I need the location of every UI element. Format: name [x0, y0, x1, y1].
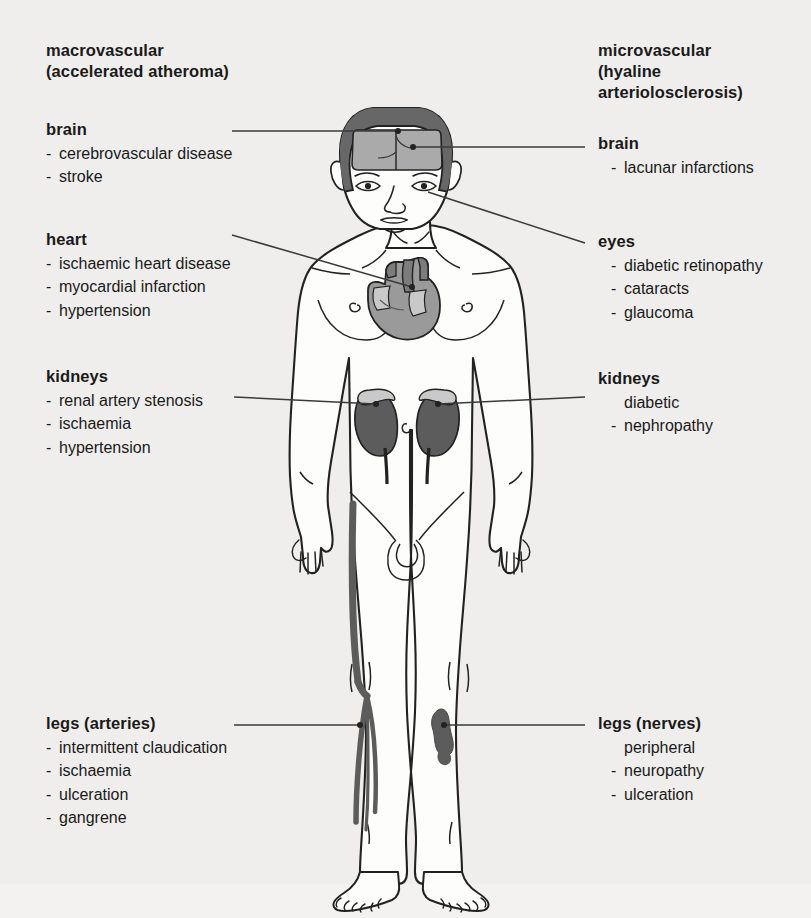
- block-title: heart: [46, 228, 231, 252]
- label-block-brain-left: brain -cerebrovascular disease -stroke: [46, 118, 232, 189]
- list-item: -ulceration: [46, 783, 227, 807]
- list-item: -myocardial infarction: [46, 275, 231, 299]
- list-item: -hypertension: [46, 299, 231, 323]
- page-bottom-strip: [0, 884, 811, 918]
- label-block-kidneys-left: kidneys -renal artery stenosis -ischaemi…: [46, 365, 203, 459]
- list-item: -glaucoma: [598, 301, 763, 325]
- list-item: -ischaemic heart disease: [46, 252, 231, 276]
- block-items: -diabetic retinopathy -cataracts -glauco…: [598, 254, 763, 325]
- block-items: -cerebrovascular disease -stroke: [46, 142, 232, 189]
- list-item: -hypertension: [46, 436, 203, 460]
- label-block-legs-left: legs (arteries) -intermittent claudicati…: [46, 712, 227, 830]
- list-item: -diabetic nephropathy: [598, 391, 713, 438]
- label-block-eyes-right: eyes -diabetic retinopathy -cataracts -g…: [598, 230, 763, 324]
- block-items: -peripheral neuropathy -ulceration: [598, 736, 704, 807]
- label-block-kidneys-right: kidneys -diabetic nephropathy: [598, 367, 713, 438]
- knee-left-a: [351, 664, 353, 692]
- label-block-legs-right: legs (nerves) -peripheral neuropathy -ul…: [598, 712, 704, 806]
- list-item: -cataracts: [598, 277, 763, 301]
- block-items: -renal artery stenosis -ischaemia -hyper…: [46, 389, 203, 460]
- list-item: -peripheral neuropathy: [598, 736, 704, 783]
- block-items: -diabetic nephropathy: [598, 391, 713, 438]
- list-item: -ulceration: [598, 783, 704, 807]
- label-block-brain-right: brain -lacunar infarctions: [598, 132, 754, 179]
- block-items: -ischaemic heart disease -myocardial inf…: [46, 252, 231, 323]
- list-item: -gangrene: [46, 806, 227, 830]
- brain-window: [352, 130, 442, 170]
- knee-right-b: [467, 664, 469, 692]
- list-item: -stroke: [46, 165, 232, 189]
- list-item: -cerebrovascular disease: [46, 142, 232, 166]
- list-item: -intermittent claudication: [46, 736, 227, 760]
- column-heading-macrovascular: macrovascular (accelerated atheroma): [46, 40, 229, 82]
- list-item: -diabetic retinopathy: [598, 254, 763, 278]
- block-items: -intermittent claudication -ischaemia -u…: [46, 736, 227, 830]
- block-title: legs (arteries): [46, 712, 227, 736]
- label-block-heart-left: heart -ischaemic heart disease -myocardi…: [46, 228, 231, 322]
- block-title: legs (nerves): [598, 712, 704, 736]
- block-title: brain: [598, 132, 754, 156]
- list-item: -lacunar infarctions: [598, 156, 754, 180]
- block-title: kidneys: [46, 365, 203, 389]
- list-item: -ischaemia: [46, 412, 203, 436]
- block-title: eyes: [598, 230, 763, 254]
- block-title: kidneys: [598, 367, 713, 391]
- list-item: -ischaemia: [46, 759, 227, 783]
- block-items: -lacunar infarctions: [598, 156, 754, 180]
- block-title: brain: [46, 118, 232, 142]
- body-outline: [290, 108, 533, 884]
- list-item: -renal artery stenosis: [46, 389, 203, 413]
- column-heading-microvascular: microvascular (hyaline arteriolosclerosi…: [598, 40, 743, 103]
